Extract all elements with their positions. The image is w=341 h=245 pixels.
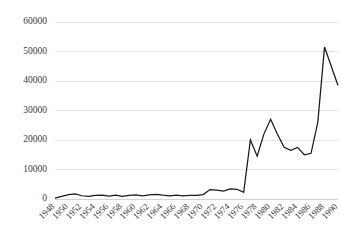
y-axis-tick-label: 40000 [23, 75, 47, 85]
y-axis-tick-label: 10000 [23, 164, 47, 174]
chart-canvas: 0100002000030000400005000060000 19481950… [0, 0, 341, 245]
y-axis-tick-label: 60000 [23, 16, 47, 26]
y-axis-tick-label: 50000 [23, 46, 47, 56]
y-axis-tick-label: 0 [42, 193, 47, 203]
y-axis-tick-label: 20000 [23, 134, 47, 144]
y-axis-tick-label: 30000 [23, 105, 47, 115]
line-chart: 0100002000030000400005000060000 19481950… [0, 0, 341, 245]
